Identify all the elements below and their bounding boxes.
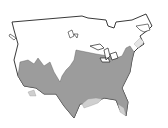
range-map [0,0,168,128]
range-secondary-southwest [28,90,36,96]
